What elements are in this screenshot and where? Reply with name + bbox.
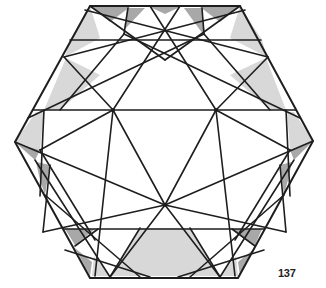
node-lower-center bbox=[163, 203, 167, 207]
node-upper-right bbox=[214, 108, 218, 112]
left-line-6 bbox=[45, 195, 140, 277]
line-ur-top bbox=[150, 6, 216, 110]
line-lc-left bbox=[15, 142, 165, 205]
hexagon-diagram bbox=[0, 0, 326, 288]
line-lc-ul bbox=[113, 110, 165, 205]
light-shaded-regions bbox=[15, 6, 313, 276]
node-upper-left bbox=[111, 108, 115, 112]
nodes bbox=[111, 108, 218, 207]
line-ul-left bbox=[40, 110, 113, 150]
diag-top-7 bbox=[124, 34, 300, 118]
page-number: 137 bbox=[278, 267, 295, 279]
line-ur-right bbox=[216, 110, 290, 150]
light-facet-upper-right bbox=[230, 58, 286, 110]
line-lc-ur bbox=[165, 110, 216, 205]
line-lc-right bbox=[165, 141, 313, 205]
line-ul-top bbox=[113, 6, 180, 110]
right-line-6 bbox=[190, 195, 284, 277]
dark-facet-bottom-left-2 bbox=[75, 248, 92, 276]
